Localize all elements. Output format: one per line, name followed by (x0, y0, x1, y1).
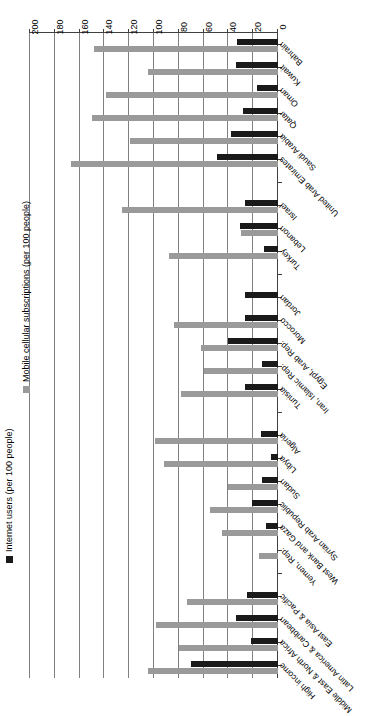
bar-row (30, 263, 278, 286)
bar-row (30, 356, 278, 379)
bar-mobile-subscriptions (204, 368, 278, 374)
bar-internet-users (251, 638, 278, 644)
bar-mobile-subscriptions (181, 391, 278, 397)
bar-mobile-subscriptions (164, 461, 278, 467)
bar-mobile-subscriptions (148, 69, 278, 75)
bar-row (30, 540, 278, 563)
category-label-text: Sudan (277, 477, 301, 501)
bar-mobile-subscriptions (156, 622, 278, 628)
bar-row (30, 517, 278, 540)
bar-internet-users (243, 108, 278, 114)
bar-internet-users (231, 131, 278, 137)
bar-internet-users (245, 384, 278, 390)
bar-mobile-subscriptions (106, 92, 278, 98)
bar-internet-users (247, 592, 278, 598)
bar-mobile-subscriptions (228, 484, 278, 490)
bar-internet-users (245, 315, 278, 321)
bar-mobile-subscriptions (122, 207, 278, 213)
bar-mobile-subscriptions (201, 345, 278, 351)
bar-internet-users (245, 292, 278, 298)
category-label-text: Israel (277, 201, 299, 223)
bar-row (30, 102, 278, 125)
bar-row (30, 56, 278, 79)
bar-mobile-subscriptions (179, 645, 278, 651)
bar-internet-users (236, 615, 278, 621)
bar-mobile-subscriptions (222, 530, 278, 536)
category-tick (278, 412, 282, 413)
category-label-text: Algeria (277, 431, 303, 457)
bar-internet-users (245, 200, 278, 206)
category-label-text: Qatar (277, 109, 299, 131)
bar-row (30, 586, 278, 609)
bar-internet-users (261, 431, 278, 437)
bar-internet-users (237, 39, 278, 45)
bar-internet-users (240, 223, 278, 229)
bar-internet-users (262, 361, 278, 367)
bar-row (30, 240, 278, 263)
bar-row (30, 79, 278, 102)
bar-row (30, 471, 278, 494)
legend-label-internet-users: Internet users (per 100 people) (4, 428, 14, 552)
bar-internet-users (257, 85, 278, 91)
bar-row (30, 609, 278, 632)
bar-internet-users (252, 500, 278, 506)
bar-row (30, 379, 278, 402)
bar-row (30, 332, 278, 355)
bar-mobile-subscriptions (94, 46, 278, 52)
legend-entry-internet-users: Internet users (per 100 people) (4, 428, 14, 563)
bar-mobile-subscriptions (148, 668, 278, 674)
bar-mobile-subscriptions (71, 161, 278, 167)
bar-row (30, 448, 278, 471)
bar-mobile-subscriptions (174, 322, 278, 328)
bar-internet-users (191, 661, 278, 667)
bar-internet-users (271, 454, 278, 460)
bar-mobile-subscriptions (187, 599, 278, 605)
bar-row (30, 402, 278, 425)
bar-row (30, 655, 278, 678)
bar-row (30, 632, 278, 655)
bar-mobile-subscriptions (92, 115, 278, 121)
internet-swatch-icon (6, 556, 13, 563)
bar-row (30, 425, 278, 448)
bar-row (30, 33, 278, 56)
bar-row (30, 217, 278, 240)
bar-mobile-subscriptions (169, 253, 278, 259)
bar-mobile-subscriptions (155, 438, 278, 444)
bar-row (30, 286, 278, 309)
bar-mobile-subscriptions (210, 507, 278, 513)
category-label-text: Bahrain (277, 40, 305, 68)
bar-row (30, 494, 278, 517)
bar-mobile-subscriptions (241, 230, 278, 236)
bar-row (30, 309, 278, 332)
bar-mobile-subscriptions (259, 553, 278, 559)
category-label-text: Oman (277, 86, 300, 109)
category-label-text: Libya (277, 454, 298, 475)
bar-row (30, 563, 278, 586)
category-tick (278, 182, 282, 183)
bar-row (30, 125, 278, 148)
bar-row (30, 171, 278, 194)
bar-internet-users (217, 154, 278, 160)
category-tick (278, 573, 282, 574)
bar-row (30, 148, 278, 171)
category-tick (278, 274, 282, 275)
bar-internet-users (228, 338, 278, 344)
bar-internet-users (236, 62, 278, 68)
category-label-text: Jordan (277, 293, 302, 318)
bar-internet-users (266, 523, 278, 529)
bar-internet-users (262, 477, 278, 483)
bar-internet-users (264, 246, 278, 252)
bar-mobile-subscriptions (130, 138, 278, 144)
bar-row (30, 194, 278, 217)
